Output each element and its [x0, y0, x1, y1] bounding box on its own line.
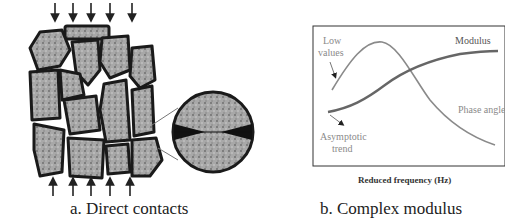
top-load-arrows [55, 3, 132, 18]
modulus-curve [328, 51, 498, 112]
label-low-values-2: values [318, 47, 344, 58]
label-low-values-1: Low [323, 35, 342, 46]
contact-magnifier [173, 92, 253, 172]
phase-angle-curve [332, 42, 495, 145]
bottom-load-arrows [53, 181, 130, 196]
label-asymptotic-1: Asymptotic [320, 131, 367, 142]
direct-contacts-panel: a. Direct contacts [0, 0, 260, 224]
label-phase-angle: Phase angle [458, 104, 505, 115]
complex-modulus-chart: Low values Modulus Phase angle Asymptoti… [280, 0, 505, 224]
x-axis-label: Reduced frequency (Hz) [358, 175, 451, 185]
label-asymptotic-2: trend [332, 143, 353, 154]
label-modulus: Modulus [455, 35, 491, 46]
caption-complex-modulus: b. Complex modulus [320, 199, 462, 219]
caption-direct-contacts: a. Direct contacts [70, 199, 188, 219]
complex-modulus-panel: Low values Modulus Phase angle Asymptoti… [280, 0, 505, 224]
aggregate-contact-diagram [0, 0, 260, 224]
